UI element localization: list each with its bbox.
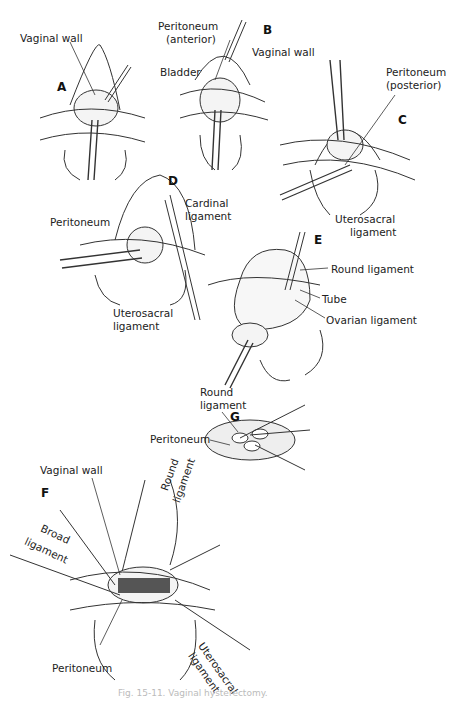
figure-caption: Fig. 15-11. Vaginal hysterectomy. [118, 688, 268, 698]
label-vaginal-wall-f: Vaginal wall [40, 464, 103, 476]
panel-e-drawing [208, 232, 328, 388]
label-peritoneum-posterior-line2: (posterior) [386, 79, 441, 91]
panel-letter-a: A [57, 80, 66, 94]
label-peritoneum-g: Peritoneum [150, 433, 210, 445]
panel-letter-f: F [41, 486, 49, 500]
illustration-drawings [0, 0, 460, 703]
label-vaginal-wall-b: Vaginal wall [252, 46, 315, 58]
label-tube: Tube [322, 293, 347, 305]
label-round-ligament-g-line2: ligament [200, 399, 246, 411]
panel-f-drawing [10, 478, 250, 680]
panel-letter-c: C [398, 113, 407, 127]
label-round-ligament-e: Round ligament [331, 263, 414, 275]
label-ovarian-ligament: Ovarian ligament [326, 314, 417, 326]
label-uterosacral-d-line2: ligament [113, 320, 159, 332]
label-cardinal-line2: ligament [185, 210, 231, 222]
panel-d-drawing [60, 175, 205, 320]
label-peritoneum-anterior-line1: Peritoneum [158, 20, 218, 32]
surgical-illustration-figure: A B C D E G F Vaginal wall Peritoneum (a… [0, 0, 460, 703]
panel-letter-e: E [314, 233, 322, 247]
panel-letter-d: D [168, 174, 178, 188]
panel-letter-g: G [230, 410, 240, 424]
label-round-ligament-g-line1: Round [200, 386, 233, 398]
panel-letter-b: B [263, 23, 272, 37]
panel-a-drawing [40, 42, 145, 180]
label-uterosacral-c-line2: ligament [350, 226, 396, 238]
label-vaginal-wall-a: Vaginal wall [20, 32, 83, 44]
label-bladder: Bladder [160, 66, 201, 78]
label-peritoneum-f: Peritoneum [52, 662, 112, 674]
label-uterosacral-d-line1: Uterosacral [113, 307, 173, 319]
label-cardinal-line1: Cardinal [185, 197, 229, 209]
label-uterosacral-c-line1: Uterosacral [335, 213, 395, 225]
label-peritoneum-anterior-line2: (anterior) [166, 33, 216, 45]
label-peritoneum-posterior-line1: Peritoneum [386, 66, 446, 78]
label-peritoneum-d: Peritoneum [50, 216, 110, 228]
panel-g-drawing [205, 405, 310, 470]
